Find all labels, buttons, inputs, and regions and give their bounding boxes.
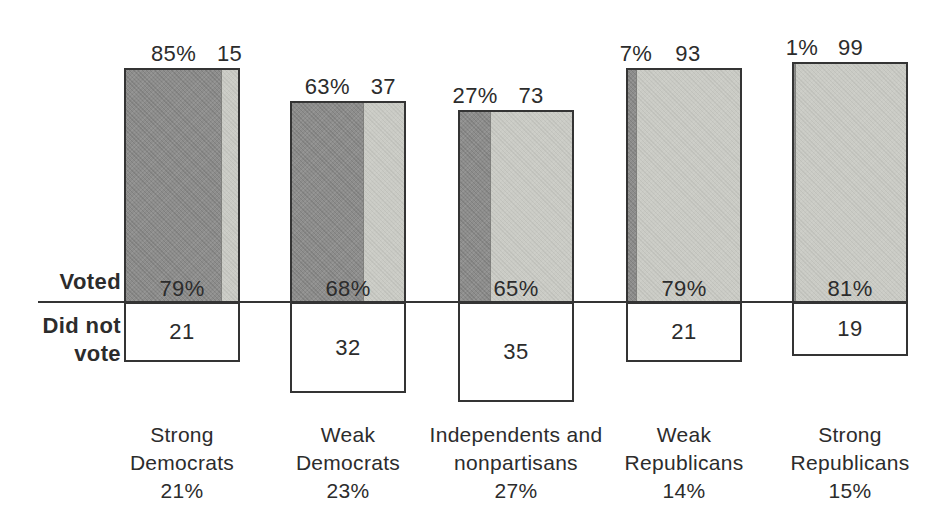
voted-pct-label: 79% — [159, 276, 204, 302]
category-label: StrongDemocrats21% — [130, 421, 234, 505]
did-not-vote-box: 19 — [792, 302, 908, 356]
rep-vote-top-label: 37 — [371, 74, 396, 100]
category-label: WeakDemocrats23% — [296, 421, 400, 505]
voted-pct-label: 65% — [493, 276, 538, 302]
category-share-label: 27% — [430, 477, 603, 505]
category-name-line2: nonpartisans — [430, 449, 603, 477]
democratic-vote-segment — [460, 112, 490, 301]
did-not-vote-value: 32 — [335, 335, 360, 361]
republican-vote-segment — [221, 70, 238, 301]
rep-vote-top-label: 93 — [675, 41, 700, 67]
dem-vote-top-label: 1% — [786, 35, 819, 61]
voted-row-label: Voted — [0, 268, 121, 296]
did-not-vote-row-label: Did not vote — [0, 312, 121, 368]
category-name-line2: Republicans — [625, 449, 744, 477]
did-not-vote-box: 35 — [458, 302, 574, 402]
dem-vote-top-label: 27% — [452, 83, 497, 109]
category-name-line2: Republicans — [791, 449, 910, 477]
voted-pct-label: 68% — [325, 276, 370, 302]
rep-vote-top-label: 99 — [838, 35, 863, 61]
did-not-vote-value: 19 — [837, 316, 862, 342]
rep-vote-top-label: 15 — [217, 41, 242, 67]
category-label: Independents andnonpartisans27% — [430, 421, 603, 505]
category-share-label: 23% — [296, 477, 400, 505]
vote-bar — [124, 68, 240, 303]
voted-pct-label: 79% — [661, 276, 706, 302]
category-name-line1: Strong — [791, 421, 910, 449]
vote-bar — [626, 68, 742, 303]
rep-vote-top-label: 73 — [518, 83, 543, 109]
democratic-vote-segment — [292, 103, 363, 301]
vote-bar — [792, 62, 908, 303]
dem-vote-top-label: 85% — [151, 41, 196, 67]
dem-vote-top-label: 63% — [305, 74, 350, 100]
did-not-vote-row-line1: Did not — [0, 312, 121, 340]
democratic-vote-segment — [628, 70, 636, 301]
category-share-label: 14% — [625, 477, 744, 505]
did-not-vote-value: 21 — [169, 319, 194, 345]
republican-vote-segment — [363, 103, 404, 301]
did-not-vote-box: 21 — [124, 302, 240, 362]
did-not-vote-box: 21 — [626, 302, 742, 362]
did-not-vote-row-line2: vote — [0, 340, 121, 368]
category-share-label: 21% — [130, 477, 234, 505]
republican-vote-segment — [490, 112, 572, 301]
did-not-vote-box: 32 — [290, 302, 406, 393]
party-turnout-vote-figure: Voted Did not vote 85%1579%21StrongDemoc… — [0, 0, 951, 526]
category-name-line1: Weak — [296, 421, 400, 449]
dem-vote-top-label: 7% — [620, 41, 653, 67]
category-name-line1: Weak — [625, 421, 744, 449]
category-name-line2: Democrats — [130, 449, 234, 477]
category-name-line1: Independents and — [430, 421, 603, 449]
did-not-vote-value: 21 — [671, 319, 696, 345]
republican-vote-segment — [795, 64, 906, 301]
category-label: WeakRepublicans14% — [625, 421, 744, 505]
did-not-vote-value: 35 — [503, 339, 528, 365]
republican-vote-segment — [636, 70, 740, 301]
vote-bar — [290, 101, 406, 303]
category-label: StrongRepublicans15% — [791, 421, 910, 505]
category-name-line2: Democrats — [296, 449, 400, 477]
voted-pct-label: 81% — [827, 276, 872, 302]
category-share-label: 15% — [791, 477, 910, 505]
vote-bar — [458, 110, 574, 303]
democratic-vote-segment — [126, 70, 221, 301]
category-name-line1: Strong — [130, 421, 234, 449]
